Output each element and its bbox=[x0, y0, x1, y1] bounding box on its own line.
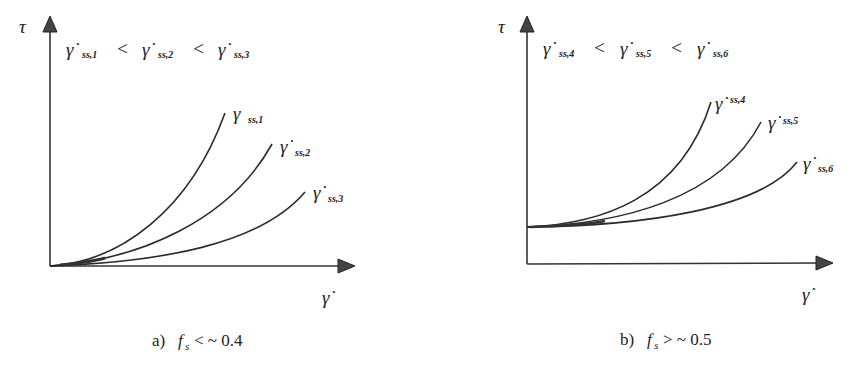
caption-prefix: a) bbox=[152, 331, 165, 350]
curve-ss3-a bbox=[50, 192, 305, 266]
curve-origin-bundle-b bbox=[530, 221, 605, 227]
caption-var-subscript: s bbox=[185, 340, 189, 352]
ordering-operator: < bbox=[192, 38, 205, 59]
curve-ss1-a bbox=[50, 113, 225, 266]
curve-label-symbol: γ bbox=[233, 103, 241, 124]
curve-label-symbol: γ̇ bbox=[768, 112, 781, 133]
x-axis-label-b: γ̇ bbox=[802, 284, 815, 305]
ordering-term-subscript: ss,4 bbox=[558, 48, 574, 59]
curve-label-symbol: γ̇ bbox=[280, 136, 293, 157]
ordering-term-symbol: γ̇ bbox=[620, 38, 633, 59]
ordering-term-subscript: ss,2 bbox=[157, 49, 173, 60]
caption-var: f bbox=[647, 330, 654, 349]
ordering-term-subscript: ss,6 bbox=[712, 48, 728, 59]
curve-label-subscript: ss,3 bbox=[327, 193, 343, 204]
ordering-term-subscript: ss,3 bbox=[233, 49, 249, 60]
ordering-term-symbol: γ̇ bbox=[543, 38, 556, 59]
ordering-term-symbol: γ̇ bbox=[218, 39, 231, 60]
ordering-operator: < bbox=[593, 37, 606, 58]
curve-label-subscript: ss,6 bbox=[817, 163, 833, 174]
y-axis-label-a: τ bbox=[19, 16, 27, 37]
ordering-term-subscript: ss,5 bbox=[635, 48, 651, 59]
caption-condition: > ~ 0.5 bbox=[663, 330, 712, 349]
curve-label-symbol: γ̇ bbox=[715, 93, 728, 114]
panel-a: τ γ̇ γ̇ ss,1 < γ̇ ss,2 < γ̇ ss,3 γ ss,1 … bbox=[19, 16, 355, 352]
curve-ss5-b bbox=[527, 122, 761, 227]
curve-label-subscript: ss,5 bbox=[782, 115, 798, 126]
panel-b: τ γ̇ γ̇ ss,4 < γ̇ ss,5 < γ̇ ss,6 γ̇ ss,4… bbox=[498, 16, 833, 351]
curve-ss4-b bbox=[527, 102, 711, 227]
ordering-header-b: γ̇ ss,4 < γ̇ ss,5 < γ̇ ss,6 bbox=[543, 37, 728, 59]
curve-label-symbol: γ̇ bbox=[313, 182, 326, 203]
y-axis-arrow-icon-a bbox=[43, 16, 57, 32]
ordering-operator: < bbox=[670, 37, 683, 58]
ordering-operator: < bbox=[116, 38, 129, 59]
ordering-term-symbol: γ̇ bbox=[697, 38, 710, 59]
x-axis-arrow-icon-a bbox=[338, 259, 355, 273]
curve-label-subscript: ss,2 bbox=[294, 147, 310, 158]
curve-label-subscript: ss,1 bbox=[247, 114, 263, 125]
figure-canvas: τ γ̇ γ̇ ss,1 < γ̇ ss,2 < γ̇ ss,3 γ ss,1 … bbox=[0, 0, 856, 374]
caption-prefix: b) bbox=[620, 330, 634, 349]
y-axis-arrow-icon-b bbox=[520, 16, 534, 32]
ordering-term-symbol: γ̇ bbox=[142, 39, 155, 60]
y-axis-label-b: τ bbox=[498, 16, 506, 37]
caption-b: b) f s > ~ 0.5 bbox=[620, 330, 712, 351]
ordering-term-symbol: γ̇ bbox=[66, 39, 79, 60]
curve-label-symbol: γ̇ bbox=[803, 153, 816, 174]
ordering-term-subscript: ss,1 bbox=[81, 49, 97, 60]
caption-var: f bbox=[178, 331, 185, 350]
curve-ss6-b bbox=[527, 162, 797, 227]
x-axis-arrow-icon-b bbox=[816, 256, 833, 270]
ordering-header-a: γ̇ ss,1 < γ̇ ss,2 < γ̇ ss,3 bbox=[66, 38, 249, 60]
caption-var-subscript: s bbox=[654, 339, 658, 351]
x-axis-b bbox=[527, 263, 818, 264]
caption-a: a) f s < ~ 0.4 bbox=[152, 331, 243, 352]
curve-label-subscript: ss,4 bbox=[729, 94, 745, 105]
curve-ss2-a bbox=[50, 144, 272, 266]
x-axis-label-a: γ̇ bbox=[322, 287, 335, 308]
caption-condition: < ~ 0.4 bbox=[194, 331, 243, 350]
